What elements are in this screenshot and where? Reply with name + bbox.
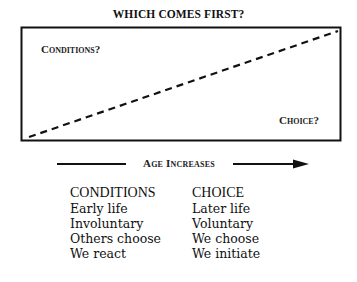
choice-item: We choose: [192, 231, 260, 246]
conditions-question-label: Conditions?: [41, 43, 100, 55]
conditions-item: Involuntary: [70, 216, 192, 231]
conditions-heading: CONDITIONS: [70, 186, 192, 200]
choice-item: Later life: [192, 201, 260, 216]
age-increases-label: Age Increases: [143, 157, 215, 169]
conditions-item: We react: [70, 246, 192, 261]
choice-question-label: Choice?: [279, 114, 319, 126]
conditions-item: Early life: [70, 201, 192, 216]
choice-heading: CHOICE: [192, 186, 260, 200]
choice-item: Voluntary: [192, 216, 260, 231]
conditions-item: Others choose: [70, 231, 192, 246]
choice-item: We initiate: [192, 246, 260, 261]
comparison-columns: CONDITIONS Early life Involuntary Others…: [70, 186, 260, 261]
arrow-right-icon: [293, 160, 309, 169]
conditions-column: CONDITIONS Early life Involuntary Others…: [70, 186, 192, 261]
choice-column: CHOICE Later life Voluntary We choose We…: [192, 186, 260, 261]
